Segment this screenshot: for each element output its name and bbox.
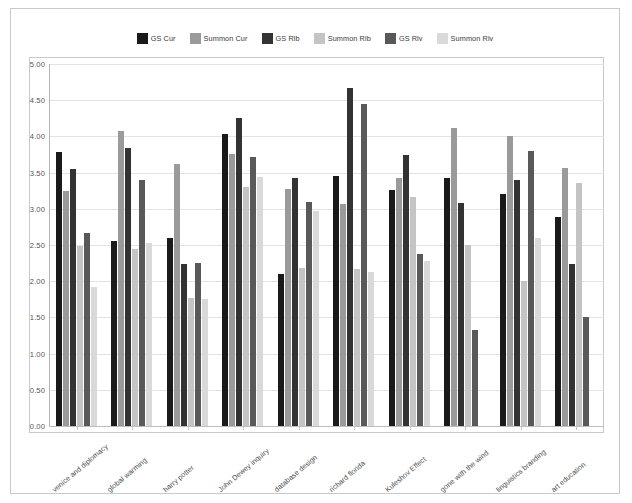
bar [139,180,145,426]
bar [243,187,249,426]
legend-entry[interactable]: Summon Rlb [314,33,371,44]
x-axis-tick-label: global warming [105,456,148,494]
legend-swatch-icon [190,33,201,44]
bar [285,189,291,426]
legend-entry[interactable]: Summon Cur [190,33,248,44]
bar-group [56,64,98,426]
x-axis-labels: venice and diplomacyglobal warmingharry … [11,433,621,495]
bar [528,151,534,426]
legend-entry[interactable]: GS Rlb [262,33,300,44]
y-axis-tick-label: 2.50 [13,241,45,250]
bar [56,152,62,426]
legend-label: Summon Cur [204,34,248,43]
y-axis-tick-label: 5.00 [13,60,45,69]
x-axis-tick-label: Kuleshov Effect [383,455,428,494]
bar [507,136,513,426]
bar [313,211,319,426]
bar [299,268,305,426]
legend-swatch-icon [385,33,396,44]
bar [521,281,527,426]
bar [444,178,450,426]
bar [514,180,520,426]
legend-entry[interactable]: GS Rlv [385,33,423,44]
bar [70,169,76,426]
bar [84,233,90,426]
y-axis-line [49,64,50,427]
bar-group [278,64,320,426]
bar [410,197,416,426]
bar-group [555,64,597,426]
bar [424,261,430,426]
legend-label: Summon Rlv [451,34,494,43]
bar [396,178,402,426]
legend-entry[interactable]: GS Cur [137,33,176,44]
x-axis-tick-mark [521,426,522,430]
bar-group [333,64,375,426]
bar [458,203,464,426]
bar [368,272,374,426]
bar [361,104,367,426]
bar [472,330,478,426]
y-axis-tick-label: 3.50 [13,168,45,177]
bar-group [389,64,431,426]
bar-group [222,64,264,426]
x-axis-tick-mark [243,426,244,430]
bar [250,157,256,426]
legend-label: GS Cur [151,34,176,43]
legend-swatch-icon [314,33,325,44]
x-axis-tick-mark [299,426,300,430]
y-axis-tick-label: 4.00 [13,132,45,141]
bar [389,190,395,426]
bar [222,134,228,426]
bar [451,128,457,426]
bar-group [500,64,542,426]
bar-group [167,64,209,426]
x-axis-tick-mark [77,426,78,430]
bar [569,264,575,426]
bar [118,131,124,426]
legend-swatch-icon [137,33,148,44]
bar [583,317,589,426]
bar [354,269,360,426]
bar [562,168,568,426]
x-axis-tick-mark [354,426,355,430]
x-axis-tick-label: gone with the wind [438,448,490,494]
bar [125,148,131,426]
y-axis-tick-label: 2.00 [13,277,45,286]
bar-group [444,64,486,426]
bar-groups [49,64,604,426]
legend-swatch-icon [437,33,448,44]
bar [167,238,173,426]
x-axis-tick-label: John Dewey inquiry [216,446,271,494]
bar [77,246,83,426]
x-axis-tick-mark [465,426,466,430]
x-axis-tick-mark [576,426,577,430]
x-axis-tick-mark [132,426,133,430]
bar [333,176,339,427]
x-axis-tick-label: venice and diplomacy [50,442,110,494]
bar [257,177,263,426]
chart-legend: GS CurSummon CurGS RlbSummon RlbGS RlvSu… [11,29,619,47]
bar [132,249,138,426]
x-axis-tick-label: art education [549,460,587,494]
legend-entry[interactable]: Summon Rlv [437,33,494,44]
bar [202,299,208,426]
bar [236,118,242,426]
y-axis-labels: 0.000.501.001.502.002.503.003.504.004.50… [11,64,45,426]
y-axis-tick-label: 0.00 [13,422,45,431]
y-axis-tick-label: 3.00 [13,204,45,213]
bar [306,202,312,426]
bar [403,155,409,426]
bar [340,204,346,426]
y-axis-tick-label: 1.50 [13,313,45,322]
x-axis-tick-label: harry potter [161,463,195,494]
bar [535,238,541,426]
x-axis-tick-label: richard florida [327,459,367,494]
bar [195,263,201,426]
y-axis-tick-label: 1.00 [13,349,45,358]
x-axis-tick-label: linguistics branding [494,447,547,494]
legend-label: GS Rlb [276,34,300,43]
bar [555,217,561,426]
bar-group [111,64,153,426]
bar [292,178,298,426]
